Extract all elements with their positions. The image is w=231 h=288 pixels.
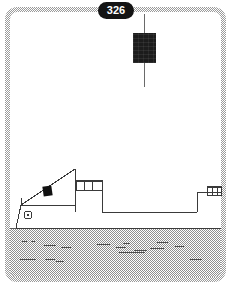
vessel-profile	[0, 0, 231, 288]
panel-number-badge: 326	[98, 2, 134, 19]
bow-porthole	[24, 211, 32, 219]
figure-panel: 326	[0, 0, 231, 288]
aft-railing	[207, 186, 221, 195]
ramp-cargo-block	[42, 185, 52, 196]
bow-stem	[16, 205, 21, 228]
foredeck-railing	[76, 180, 102, 190]
